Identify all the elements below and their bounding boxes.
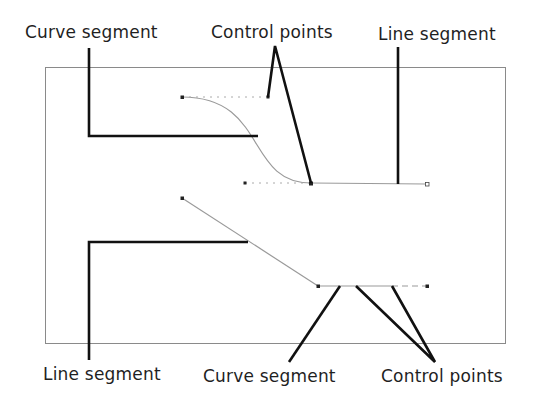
upper-anchor-start[interactable] [181, 96, 185, 100]
upper-line-segment[interactable] [311, 183, 426, 184]
lower-anchor-middle[interactable] [317, 285, 321, 289]
lower-anchor-end[interactable] [426, 285, 430, 289]
callout-control-points-bottom [356, 286, 435, 362]
upper-anchor-end[interactable] [426, 183, 430, 187]
label-line-segment-bottom: Line segment [43, 366, 161, 383]
callout-curve-segment-top [89, 48, 258, 136]
label-control-points-bottom: Control points [381, 368, 503, 385]
diagram-canvas [0, 0, 539, 407]
label-curve-segment-bottom: Curve segment [203, 368, 336, 385]
artboard-frame [46, 68, 506, 344]
label-line-segment-top: Line segment [378, 26, 496, 43]
callout-control-points-top [268, 46, 311, 183]
callout-curve-segment-bottom [289, 286, 340, 362]
upper-handle-point-2[interactable] [244, 182, 247, 185]
callout-line-segment-bottom [89, 242, 248, 360]
lower-anchor-start[interactable] [181, 197, 185, 201]
label-control-points-top: Control points [211, 24, 333, 41]
label-curve-segment-top: Curve segment [25, 24, 158, 41]
